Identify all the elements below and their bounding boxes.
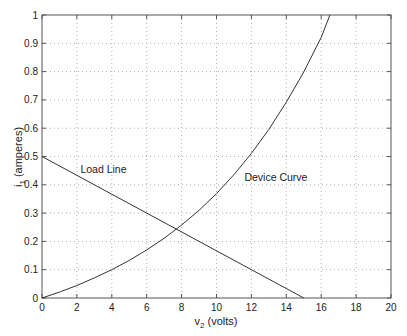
axis-ticks: 0246810121416182000.10.20.30.40.50.60.70… — [24, 10, 397, 314]
load-line-label: Load Line — [80, 163, 126, 175]
x-tick-label: 18 — [351, 302, 363, 313]
y-tick-label: 0.1 — [24, 264, 38, 275]
y-tick-label: 0.7 — [24, 94, 38, 105]
annotations: Load LineDevice Curve — [80, 163, 307, 182]
y-tick-label: 0.2 — [24, 236, 38, 247]
grid-lines — [42, 15, 391, 298]
y-tick-label: 0.6 — [24, 123, 38, 134]
x-tick-label: 14 — [281, 302, 293, 313]
y-tick-label: 1 — [32, 10, 38, 21]
y-tick-label: 0.9 — [24, 38, 38, 49]
y-tick-label: 0 — [32, 293, 38, 304]
chart: 0246810121416182000.10.20.30.40.50.60.70… — [0, 0, 407, 336]
y-tick-label: 0.8 — [24, 66, 38, 77]
y-tick-label: 0.5 — [24, 151, 38, 162]
x-tick-label: 16 — [316, 302, 328, 313]
x-tick-label: 20 — [385, 302, 397, 313]
x-tick-label: 0 — [39, 302, 45, 313]
x-tick-label: 6 — [144, 302, 150, 313]
device-curve-label: Device Curve — [244, 171, 307, 183]
x-tick-label: 4 — [109, 302, 115, 313]
y-tick-label: 0.3 — [24, 208, 38, 219]
x-tick-label: 10 — [211, 302, 223, 313]
x-tick-label: 2 — [74, 302, 80, 313]
x-tick-label: 12 — [246, 302, 258, 313]
x-axis-label: v2 (volts) — [195, 315, 238, 330]
x-tick-label: 8 — [179, 302, 185, 313]
